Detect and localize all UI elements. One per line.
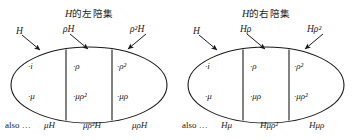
- left-footer-item-3: μρH: [132, 120, 147, 130]
- left-cell-bottom-2: ·μρ²: [73, 92, 87, 101]
- left-cell-top-3: ·ρ²: [117, 62, 126, 71]
- right-footer: also … Hμ Hμρ² Hμρ: [177, 120, 355, 134]
- right-cell-bottom-2: ·μρ: [250, 92, 261, 101]
- right-cell-bottom-3: ·μρ²: [294, 92, 308, 101]
- left-footer-item-1: μH: [44, 120, 55, 130]
- left-arrow-1: [22, 35, 40, 50]
- right-footer-also: also …: [182, 120, 208, 130]
- right-arrow-1: [199, 35, 217, 50]
- right-cell-top-1: ·i: [205, 62, 210, 71]
- right-cell-top-3: ·ρ²: [294, 62, 303, 71]
- right-group-ellipse: [188, 47, 344, 123]
- left-arrow-3: [128, 34, 146, 49]
- left-cell-top-2: ·ρ: [73, 62, 80, 71]
- left-group-ellipse: [11, 47, 167, 123]
- left-footer: also … μH μρ²H μρH: [0, 120, 178, 134]
- coset-diagram: H的左陪集 H ρH ρ²H ·i ·ρ ·ρ² ·μ ·μρ² ·μρ als…: [0, 0, 355, 140]
- panel-right-cosets: H的右陪集 H Hρ Hρ² ·i ·ρ ·ρ² ·μ ·μρ ·μρ² als…: [177, 0, 355, 140]
- left-footer-also: also …: [5, 120, 31, 130]
- left-cell-bottom-1: ·μ: [28, 92, 35, 101]
- left-cell-top-1: ·i: [28, 62, 33, 71]
- panel-left-cosets: H的左陪集 H ρH ρ²H ·i ·ρ ·ρ² ·μ ·μρ² ·μρ als…: [0, 0, 178, 140]
- right-footer-item-1: Hμ: [221, 120, 232, 130]
- right-footer-item-2: Hμρ²: [260, 120, 278, 130]
- right-panel-graphics: [177, 0, 355, 140]
- right-cell-top-2: ·ρ: [250, 62, 257, 71]
- right-arrow-3: [305, 34, 323, 49]
- right-cell-bottom-1: ·μ: [205, 92, 212, 101]
- left-panel-graphics: [0, 0, 178, 140]
- left-footer-item-2: μρ²H: [83, 120, 101, 130]
- right-footer-item-3: Hμρ: [309, 120, 324, 130]
- left-cell-bottom-3: ·μρ: [117, 92, 128, 101]
